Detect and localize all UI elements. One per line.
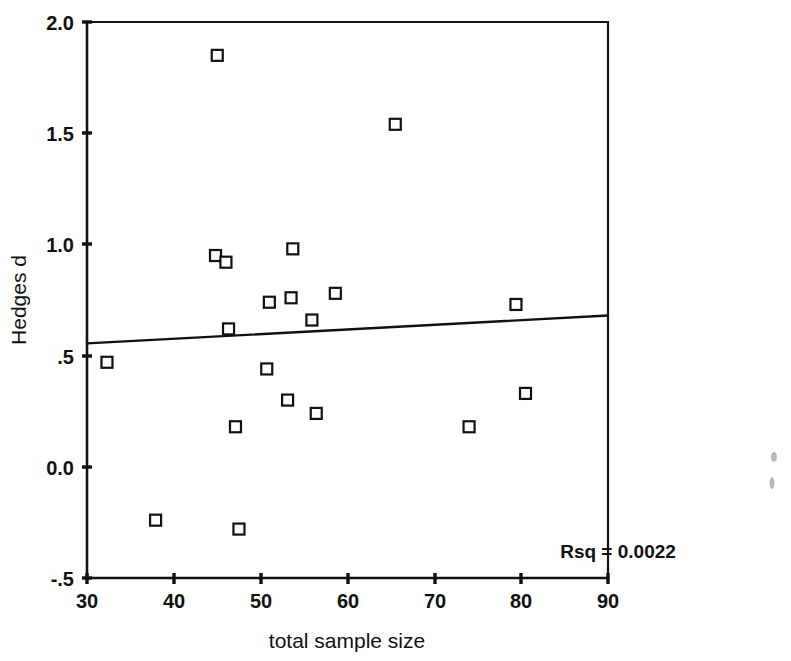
x-tick-label-40: 40	[163, 590, 185, 612]
plot-canvas: 2.0 1.5 1.0 .5 0.0 -.5 30 40 50 60 70 80…	[0, 0, 791, 661]
scan-artifact-speck	[770, 452, 778, 489]
data-point	[287, 243, 298, 254]
plot-frame	[87, 22, 608, 578]
data-point	[223, 323, 234, 334]
y-tick-label-1.5: 1.5	[46, 123, 74, 145]
x-tick-label-80: 80	[510, 590, 532, 612]
data-point-group	[101, 50, 531, 535]
y-axis-title: Hedges d	[7, 255, 30, 345]
x-tick-label-50: 50	[250, 590, 272, 612]
y-tick-label--0.5: -.5	[51, 568, 74, 590]
data-point	[233, 524, 244, 535]
data-point	[220, 257, 231, 268]
x-axis-tick-labels: 30 40 50 60 70 80 90	[76, 590, 619, 612]
data-point	[101, 357, 112, 368]
data-point	[230, 421, 241, 432]
data-point	[311, 408, 322, 419]
data-point	[264, 297, 275, 308]
data-point	[282, 395, 293, 406]
data-point	[330, 288, 341, 299]
x-tick-label-90: 90	[597, 590, 619, 612]
y-tick-label-1.0: 1.0	[46, 234, 74, 256]
data-point	[286, 292, 297, 303]
y-tick-label-0.0: 0.0	[46, 457, 74, 479]
data-point	[261, 363, 272, 374]
data-point	[212, 50, 223, 61]
regression-fit-line	[87, 316, 608, 344]
x-tick-label-30: 30	[76, 590, 98, 612]
y-tick-label-2.0: 2.0	[46, 12, 74, 34]
scatter-plot-figure: 2.0 1.5 1.0 .5 0.0 -.5 30 40 50 60 70 80…	[0, 0, 791, 661]
data-point	[510, 299, 521, 310]
data-point	[464, 421, 475, 432]
x-tick-label-70: 70	[424, 590, 446, 612]
x-tick-label-60: 60	[337, 590, 359, 612]
data-point	[390, 119, 401, 130]
rsq-annotation: Rsq = 0.0022	[560, 541, 676, 562]
y-tick-label-0.5: .5	[57, 346, 74, 368]
y-axis-tick-labels: 2.0 1.5 1.0 .5 0.0 -.5	[46, 12, 74, 590]
data-point	[150, 515, 161, 526]
data-point	[520, 388, 531, 399]
data-point	[306, 315, 317, 326]
x-axis-title: total sample size	[269, 629, 425, 652]
